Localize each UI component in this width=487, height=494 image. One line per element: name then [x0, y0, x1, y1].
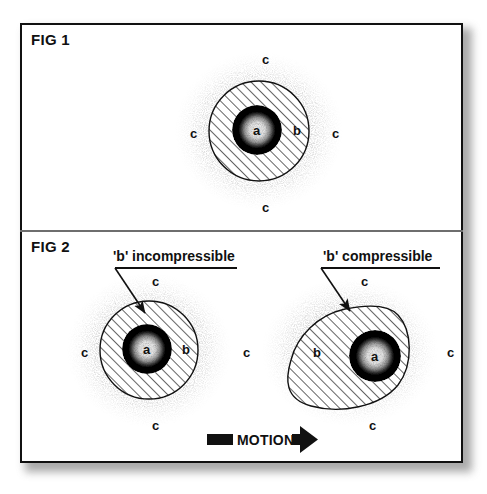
fig2-title: FIG 2 [31, 238, 70, 255]
fig2-left-label-c-top: c [152, 274, 159, 289]
callout-incompressible-text: 'b' incompressible [113, 248, 235, 264]
fig2-right-label-c-top: c [361, 274, 368, 289]
fig1-label-b: b [293, 123, 301, 138]
diagram-page: FIG 1 FIG 2 c c c c a b 'b' incompressib… [0, 0, 487, 494]
fig1-label-c-top: c [262, 52, 269, 67]
fig2-left-label-c-left: c [81, 345, 88, 360]
fig1-label-c-right: c [332, 126, 339, 141]
fig2-right-label-c-bottom: c [369, 418, 376, 433]
fig2-right-label-b: b [313, 345, 321, 360]
fig1-label-c-bottom: c [262, 200, 269, 215]
callout-compressible-text: 'b' compressible [323, 248, 432, 264]
fig1-label-c-left: c [190, 126, 197, 141]
fig2-right-label-c-right: c [447, 345, 454, 360]
motion-bar [207, 434, 233, 445]
motion-arrow-icon [292, 426, 318, 453]
motion-label: MOTION [237, 432, 294, 448]
fig2-right-label-a: a [371, 349, 378, 364]
fig2-middle-label-c: c [243, 345, 250, 360]
fig2-left-label-c-bottom: c [152, 418, 159, 433]
fig2-left-label-b: b [182, 342, 190, 357]
fig1-title: FIG 1 [31, 31, 70, 48]
fig2-left-diagram [67, 268, 237, 427]
fig2-left-label-a: a [143, 342, 150, 357]
diagram-canvas [0, 0, 487, 494]
fig2-right-diagram [262, 268, 440, 426]
fig1-label-a: a [253, 123, 260, 138]
